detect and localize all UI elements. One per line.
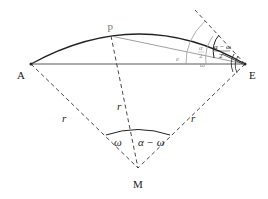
label-e: e [176, 55, 179, 63]
point-E [244, 63, 247, 66]
label-M: M [133, 178, 143, 190]
radius-MA [31, 64, 138, 168]
label-E: E [249, 69, 256, 81]
center-angle-arc [106, 130, 170, 136]
label-half-diff-num: α − ω [214, 43, 231, 51]
radius-MP [111, 36, 138, 168]
label-r-left: r [62, 112, 67, 124]
angle-arc-omega [206, 36, 213, 64]
label-half-diff-den: 2 [219, 52, 223, 60]
label-r-middle: r [117, 100, 122, 112]
label-omega-center: ω [114, 136, 122, 148]
geometry-diagram: A E P M r r r ω α − ω e α 2 ω α − ω 2 [0, 0, 268, 199]
point-A [30, 63, 33, 66]
label-r-right: r [191, 112, 196, 124]
label-omega-E: ω [200, 61, 205, 69]
label-alpha-minus-omega: α − ω [138, 136, 165, 148]
label-A: A [17, 69, 25, 81]
label-half-alpha-den: 2 [199, 52, 203, 60]
label-half-alpha-num: α [199, 44, 203, 52]
label-P: P [107, 22, 113, 34]
